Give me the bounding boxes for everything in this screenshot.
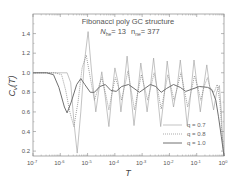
- subtitle-n2-value: = 377: [141, 27, 160, 36]
- legend-label-q10: q = 1.0: [187, 140, 206, 146]
- chart-subtitle: Nhe= 13nne= 377: [100, 27, 160, 37]
- y-tick-label: 1.2: [22, 50, 31, 56]
- y-axis-title-suffix: (T): [7, 76, 17, 88]
- curves: [33, 32, 224, 156]
- y-tick-label: 0.6: [22, 109, 31, 115]
- y-tick-label: 1.0: [22, 70, 31, 76]
- legend-label-q07: q = 0.7: [187, 122, 206, 128]
- series-line-07: [33, 32, 224, 156]
- y-tick-label: 0.8: [22, 89, 31, 95]
- y-tick-label: 1.4: [22, 31, 31, 37]
- x-tick-label: 10-1: [191, 159, 202, 167]
- y-tick-label: 0.4: [22, 129, 31, 135]
- chart: 10-710-610-510-410-310-210-11000.20.40.6…: [0, 0, 238, 183]
- x-tick-label: 100: [219, 159, 229, 167]
- x-tick-label: 10-7: [27, 159, 38, 167]
- x-tick-label: 10-6: [54, 159, 65, 167]
- x-tick-label: 10-4: [109, 159, 120, 167]
- legend: q = 0.7 q = 0.8 q = 1.0: [163, 122, 206, 146]
- x-tick-label: 10-2: [163, 159, 174, 167]
- x-tick-label: 10-3: [136, 159, 147, 167]
- chart-title: Fibonacci poly GC structure: [82, 17, 175, 26]
- y-axis-title: Cv(T): [7, 76, 18, 97]
- legend-label-q08: q = 0.8: [187, 131, 206, 137]
- x-axis-title: T: [125, 168, 132, 178]
- subtitle-n1-value: = 13: [111, 27, 126, 36]
- y-tick-label: 0.2: [22, 148, 31, 154]
- x-tick-label: 10-5: [81, 159, 92, 167]
